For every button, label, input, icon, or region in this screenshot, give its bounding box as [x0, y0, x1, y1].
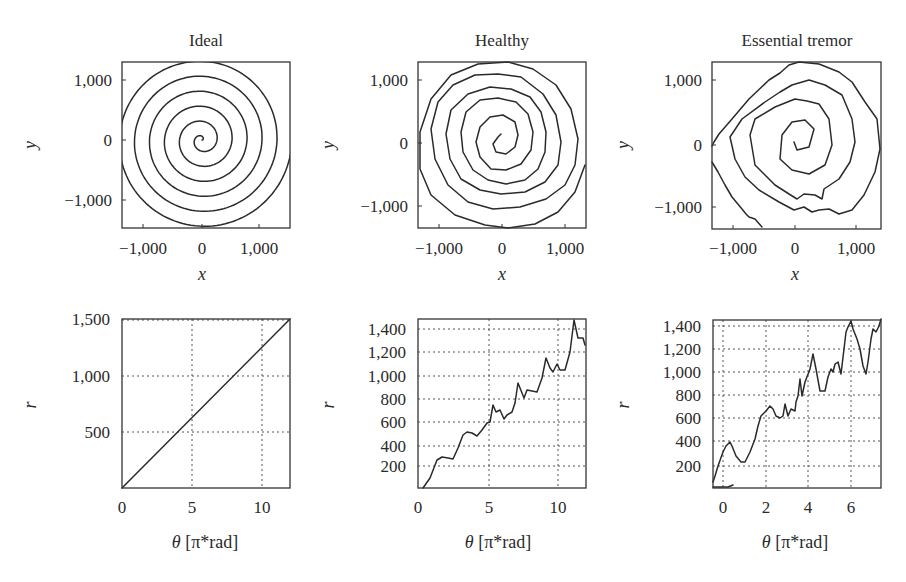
x-tick-label: 1,000 — [240, 239, 278, 258]
x-axis-label: θ [π*rad] — [172, 532, 238, 552]
y-tick-label: 0 — [694, 136, 703, 155]
x-tick-label: 1,000 — [546, 239, 584, 258]
y-tick-label: 600 — [676, 409, 702, 428]
x-tick-label: −1,000 — [709, 239, 757, 258]
x-tick-label: 4 — [804, 498, 813, 517]
tremor-spiral-curve — [712, 62, 880, 214]
y-tick-label: 600 — [381, 413, 407, 432]
y-tick-label: 1,000 — [370, 71, 408, 90]
panel-title: Healthy — [475, 31, 529, 50]
panel-healthy-spiral: Healthy 1,000 0 −1,000 −1,000 0 1,000 x … — [318, 31, 586, 284]
healthy-radius-curve — [423, 320, 585, 488]
y-axis-label: r — [318, 401, 338, 409]
y-axis-label: r — [20, 401, 40, 409]
x-axis-label: θ [π*rad] — [465, 532, 531, 552]
spiral-plot-area — [418, 62, 586, 228]
x-tick-label: 2 — [762, 498, 771, 517]
panel-title: Ideal — [189, 31, 223, 50]
y-tick-label: 1,400 — [368, 320, 406, 339]
ideal-spiral-curve — [120, 61, 292, 226]
plot-frame — [122, 62, 290, 228]
y-tick-label: 1,000 — [368, 367, 406, 386]
panel-ideal-radius: 1,500 1,000 500 0 5 10 θ [π*rad] r — [20, 310, 290, 552]
x-tick-label: 0 — [118, 498, 127, 517]
x-tick-label: 5 — [188, 498, 197, 517]
y-tick-label: 0 — [400, 134, 409, 153]
y-tick-label: 400 — [676, 432, 702, 451]
x-tick-label: 0 — [719, 498, 728, 517]
plot-frame — [418, 319, 586, 488]
panel-healthy-radius: 1,400 1,200 1,000 800 600 400 200 0 5 10… — [318, 319, 586, 552]
x-tick-label: 0 — [198, 239, 207, 258]
panel-title: Essential tremor — [742, 31, 853, 50]
radius-plot-area — [122, 319, 290, 488]
y-axis-label: y — [613, 141, 633, 151]
plot-frame — [713, 320, 881, 488]
tremor-radius-curve — [713, 319, 881, 482]
ideal-radius-line — [122, 319, 290, 488]
y-tick-label: −1,000 — [64, 191, 112, 210]
x-tick-label: 0 — [791, 239, 800, 258]
y-tick-label: 1,500 — [72, 310, 110, 329]
x-tick-label: −1,000 — [119, 239, 167, 258]
radius-plot-area — [713, 319, 881, 488]
x-tick-label: 6 — [847, 498, 856, 517]
x-tick-label: 0 — [414, 498, 423, 517]
panel-tremor-spiral: Essential tremor 1,000 0 −1,000 −1,000 0… — [613, 31, 881, 284]
y-axis-label: r — [613, 401, 633, 409]
x-tick-label: 10 — [550, 498, 567, 517]
panel-ideal-spiral: Ideal 1,000 0 −1,000 −1,000 0 1,000 x y — [20, 31, 292, 284]
radius-plot-area — [418, 319, 586, 488]
x-tick-label: 5 — [485, 498, 494, 517]
x-axis-label: x — [197, 264, 206, 284]
x-axis-label: θ [π*rad] — [762, 532, 828, 552]
panel-tremor-radius: 1,400 1,200 1,000 800 600 400 200 0 2 4 … — [613, 317, 881, 552]
y-tick-label: 200 — [381, 457, 407, 476]
y-tick-label: 1,000 — [72, 367, 110, 386]
y-tick-label: 1,000 — [74, 71, 112, 90]
y-tick-label: 400 — [381, 437, 407, 456]
y-tick-label: −1,000 — [360, 197, 408, 216]
x-tick-label: 0 — [498, 239, 507, 258]
x-tick-label: −1,000 — [415, 239, 463, 258]
y-tick-label: 500 — [85, 423, 111, 442]
y-axis-label: y — [318, 141, 338, 151]
y-tick-label: 1,200 — [368, 343, 406, 362]
y-tick-label: 800 — [381, 390, 407, 409]
x-tick-label: 10 — [254, 498, 271, 517]
x-axis-label: x — [497, 264, 506, 284]
spiral-plot-area — [712, 62, 881, 229]
y-axis-label: y — [20, 141, 40, 151]
y-tick-label: 1,000 — [663, 363, 701, 382]
healthy-spiral-curve — [420, 62, 585, 228]
x-tick-label: 1,000 — [837, 239, 875, 258]
tremor-spiral-outer-arc — [712, 162, 762, 227]
y-tick-label: 1,200 — [663, 340, 701, 359]
y-tick-label: 800 — [676, 386, 702, 405]
y-tick-label: −1,000 — [654, 198, 702, 217]
x-axis-label: x — [790, 264, 799, 284]
y-tick-label: 1,400 — [663, 317, 701, 336]
y-tick-label: 200 — [676, 457, 702, 476]
figure: Ideal 1,000 0 −1,000 −1,000 0 1,000 x y … — [0, 0, 906, 582]
y-tick-label: 1,000 — [664, 71, 702, 90]
spiral-plot-area — [120, 61, 292, 228]
y-tick-label: 0 — [104, 131, 113, 150]
